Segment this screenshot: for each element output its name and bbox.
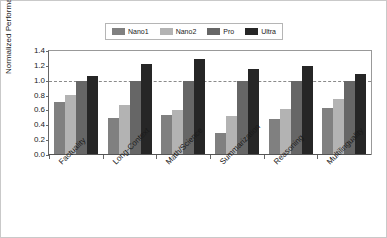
x-axis-line <box>48 154 371 155</box>
x-axis-tick-mark <box>210 155 211 159</box>
legend-entry-pro[interactable]: Pro <box>207 28 234 36</box>
bar-nano1[interactable] <box>108 118 119 155</box>
legend-entry-nano2[interactable]: Nano2 <box>160 28 197 36</box>
legend-entry-nano1[interactable]: Nano1 <box>112 28 149 36</box>
bar-nano1[interactable] <box>322 108 333 155</box>
legend-label-nano2: Nano2 <box>176 28 197 36</box>
bar-nano1[interactable] <box>54 102 65 155</box>
chart-legend: Nano1Nano2ProUltra <box>105 23 283 40</box>
x-axis-tick-mark <box>103 155 104 159</box>
legend-entry-ultra[interactable]: Ultra <box>245 28 276 36</box>
bar-ultra[interactable] <box>355 74 366 155</box>
y-axis-tick-mark <box>46 81 49 82</box>
plot-inner <box>49 51 371 155</box>
legend-swatch-pro <box>207 28 220 35</box>
bar-nano1[interactable] <box>161 115 172 155</box>
bar-nano1[interactable] <box>269 119 280 155</box>
legend-label-pro: Pro <box>223 28 234 36</box>
bar-nano1[interactable] <box>215 133 226 155</box>
x-axis-tick-mark <box>317 155 318 159</box>
y-axis-tick-mark <box>46 96 49 97</box>
x-axis-tick-mark <box>156 155 157 159</box>
y-axis-tick-mark <box>46 51 49 52</box>
legend-label-ultra: Ultra <box>261 28 276 36</box>
y-axis-tick-mark <box>46 140 49 141</box>
legend-swatch-nano1 <box>112 28 125 35</box>
legend-label-nano1: Nano1 <box>128 28 149 36</box>
bar-ultra[interactable] <box>302 66 313 155</box>
y-axis-tick-mark <box>46 110 49 111</box>
plot-area: 0.00.20.40.60.81.01.21.4 <box>48 50 372 155</box>
bar-group-long-context <box>108 51 152 155</box>
legend-swatch-nano2 <box>160 28 173 35</box>
bar-ultra[interactable] <box>87 76 98 155</box>
bar-ultra[interactable] <box>248 69 259 155</box>
chart-container: Nano1Nano2ProUltra Normalized Performanc… <box>0 0 387 238</box>
y-axis-title: Normalized Performance vs Pro <box>3 0 15 74</box>
x-axis-tick-mark <box>264 155 265 159</box>
bar-group-reasoning <box>269 51 313 155</box>
y-axis-tick-mark <box>46 66 49 67</box>
x-axis-tick-mark <box>49 155 50 159</box>
legend-swatch-ultra <box>245 28 258 35</box>
y-axis-tick-mark <box>46 125 49 126</box>
